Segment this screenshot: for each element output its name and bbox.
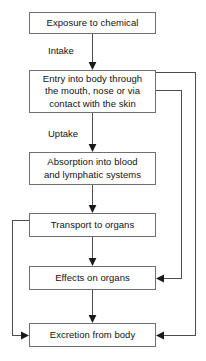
arrowhead-icon [89, 315, 97, 323]
edge-absorption-to-transport [89, 185, 97, 213]
arrowhead-icon [156, 332, 164, 340]
edge-transport-to-excretion-feedback [13, 221, 30, 340]
edge-line [13, 221, 30, 336]
edge-transport-to-effects [89, 237, 97, 266]
arrowhead-icon [89, 62, 97, 70]
edge-entry-to-absorption [89, 113, 97, 152]
edge-entry-to-effects-feedback [156, 91, 182, 283]
node-absorption-into-blood[interactable]: Absorption into blood and lymphatic syst… [29, 152, 156, 185]
arrowhead-icon [89, 144, 97, 152]
node-label: Entry into body through the mouth, nose … [40, 73, 145, 110]
node-excretion-from-body[interactable]: Excretion from body [29, 323, 156, 347]
edge-line [156, 73, 196, 336]
node-transport-to-organs[interactable]: Transport to organs [29, 213, 156, 237]
node-effects-on-organs[interactable]: Effects on organs [29, 266, 156, 290]
node-label: Absorption into blood and lymphatic syst… [41, 156, 144, 180]
node-exposure-to-chemical[interactable]: Exposure to chemical [29, 12, 156, 34]
arrowhead-icon [156, 275, 164, 283]
node-label: Effects on organs [52, 272, 133, 284]
edge-label-uptake: Uptake [48, 128, 78, 140]
arrowhead-icon [89, 205, 97, 213]
node-label: Transport to organs [48, 219, 138, 231]
edge-label-intake: Intake [48, 45, 74, 57]
node-label: Exposure to chemical [44, 17, 142, 29]
flowchart-diagram: Exposure to chemical Entry into body thr… [0, 0, 206, 361]
edge-line [156, 91, 182, 279]
node-label: Excretion from body [47, 329, 138, 341]
arrowhead-icon [21, 332, 29, 340]
node-entry-into-body[interactable]: Entry into body through the mouth, nose … [29, 70, 156, 113]
edge-entry-to-excretion-feedback [156, 73, 196, 340]
edge-exposure-to-entry [89, 34, 97, 70]
arrowhead-icon [89, 258, 97, 266]
edge-effects-to-excretion [89, 290, 97, 323]
